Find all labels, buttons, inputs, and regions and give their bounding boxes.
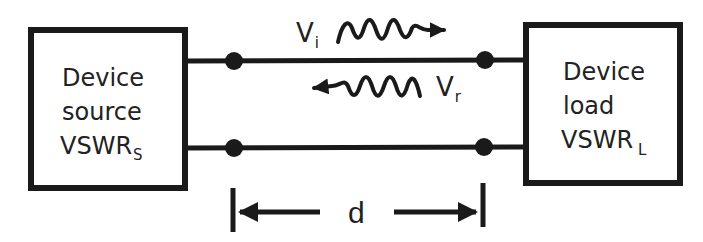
terminal-dot-top-left xyxy=(225,52,243,70)
load-vswr-label: VSWRL xyxy=(561,126,647,159)
load-line-2: load xyxy=(563,92,614,120)
vswr-diagram: Device source VSWRS Device load VSWRL Vi… xyxy=(0,0,703,242)
device-source-box: Device source VSWRS xyxy=(31,30,185,188)
reflected-wave-arrow-icon xyxy=(314,77,420,96)
distance-label: d xyxy=(348,196,365,229)
terminal-dot-bottom-right xyxy=(475,138,493,156)
reflected-voltage-label: Vr xyxy=(436,72,462,106)
source-vswr-label: VSWRS xyxy=(60,132,143,164)
incident-voltage-label: Vi xyxy=(296,18,319,52)
terminal-dot-top-right xyxy=(476,51,494,69)
incident-wave-arrow-icon xyxy=(338,20,444,42)
device-load-box: Device load VSWRL xyxy=(526,25,680,183)
distance-dimension: d xyxy=(233,183,483,232)
source-line-2: source xyxy=(62,98,142,126)
source-line-1: Device xyxy=(62,64,144,92)
terminal-dot-bottom-left xyxy=(225,139,243,157)
load-line-1: Device xyxy=(563,58,645,86)
